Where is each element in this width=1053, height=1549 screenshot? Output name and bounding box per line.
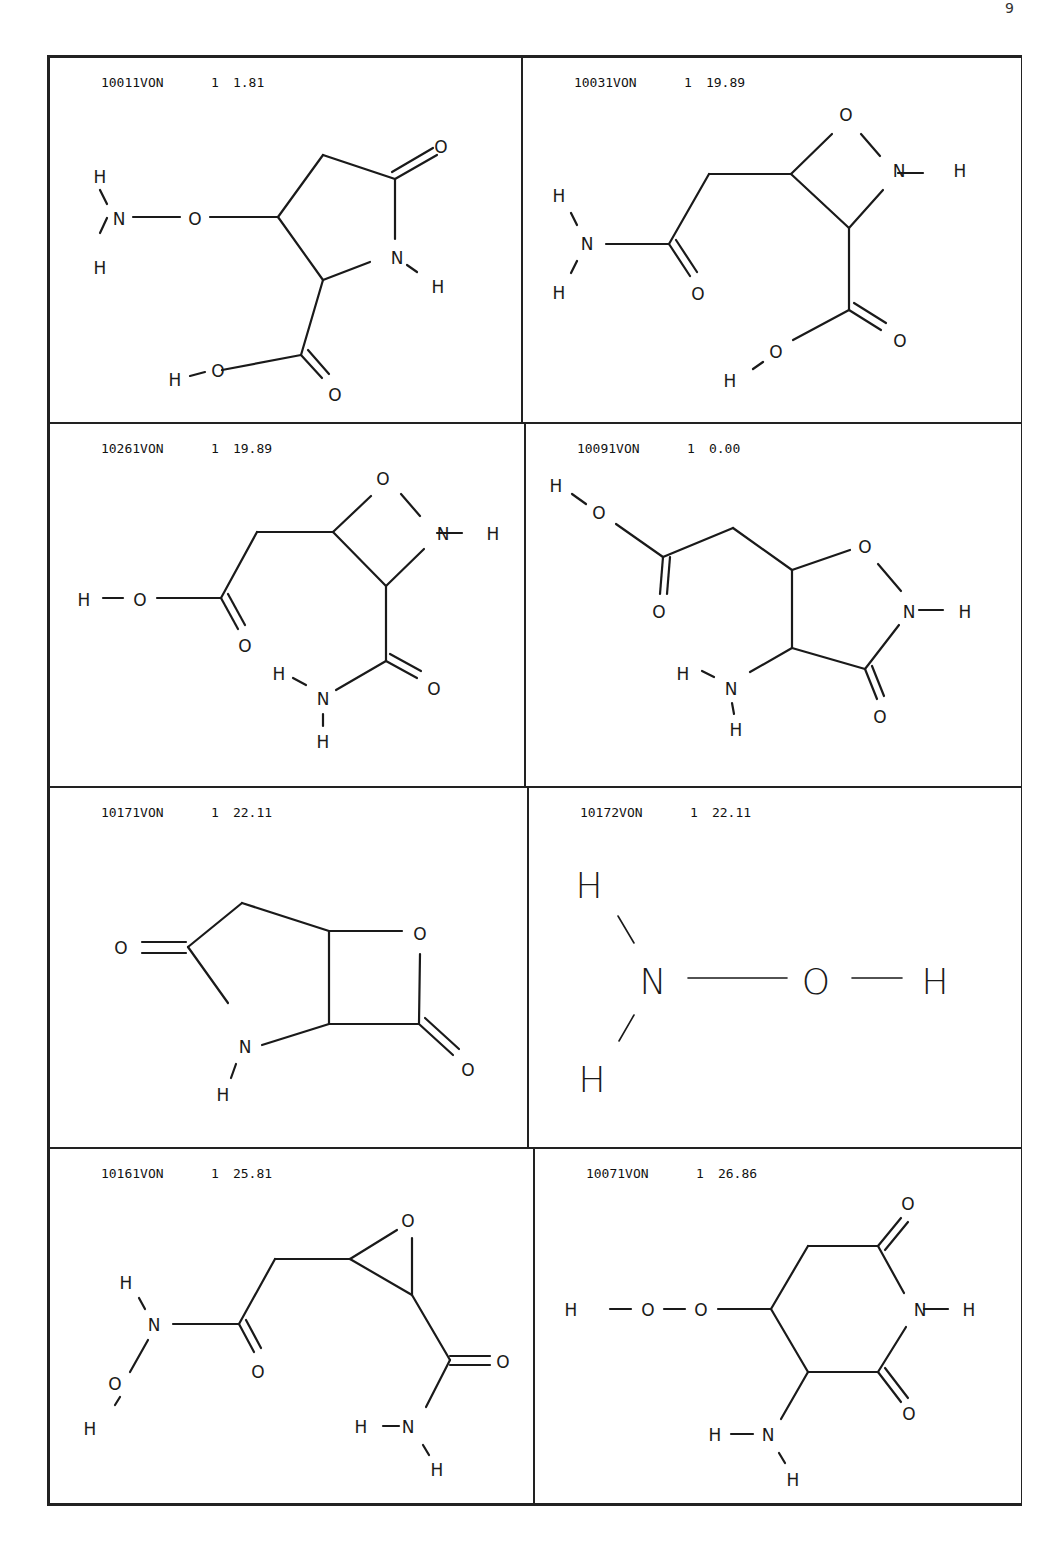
molecule-drawing: H N H O O N H H O O xyxy=(50,58,523,424)
atom-label: O xyxy=(496,1352,509,1372)
atom-label: O xyxy=(839,105,852,125)
molecule-drawing: H O O O N H H N H O xyxy=(526,424,1023,788)
atom-label: N xyxy=(581,234,594,254)
atom-label: H xyxy=(217,1085,230,1105)
atom-label: N xyxy=(113,209,126,229)
atom-label: O xyxy=(694,1300,707,1320)
atom-label: O xyxy=(641,1300,654,1320)
atom-label: H xyxy=(959,602,972,622)
atom-label: N xyxy=(914,1300,927,1320)
structure-cell: 10071VON126.86 O H O O N H O H N H xyxy=(534,1148,1022,1504)
atom-label: H xyxy=(730,720,743,740)
atom-label: N xyxy=(391,248,404,268)
atom-label: O xyxy=(802,961,830,1002)
structure-cell: 10011VON11.81 H N H O O N H H O O xyxy=(49,57,522,423)
structure-grid: 10011VON11.81 H N H O O N H H O O xyxy=(47,55,1022,1506)
atom-label: O xyxy=(769,342,782,362)
atom-label: O xyxy=(188,209,201,229)
atom-label: O xyxy=(401,1211,414,1231)
atom-label: O xyxy=(413,924,426,944)
structure-cell: 10171VON122.11 O O N H O xyxy=(49,787,528,1148)
atom-label: N xyxy=(437,524,450,544)
atom-label: O xyxy=(873,707,886,727)
structure-cell: 10091VON10.00 H O O O N H H N H O xyxy=(525,423,1022,787)
atom-label: O xyxy=(427,679,440,699)
atom-label: O xyxy=(652,602,665,622)
molecule-drawing: O N H H O O H N H O xyxy=(50,424,526,788)
atom-label: O xyxy=(592,503,605,523)
atom-label: N xyxy=(762,1425,775,1445)
atom-label: N xyxy=(402,1417,415,1437)
molecule-drawing: O O N H O xyxy=(50,788,529,1149)
atom-label: O xyxy=(376,469,389,489)
structure-cell: 10031VON119.89 O N H H N H O O H O xyxy=(522,57,1022,423)
atom-label: O xyxy=(893,331,906,351)
atom-label: N xyxy=(239,1037,252,1057)
atom-label: O xyxy=(902,1404,915,1424)
structure-cell: 10261VON119.89 O N H H O O H N H O xyxy=(49,423,525,787)
atom-label: O xyxy=(858,537,871,557)
atom-label: O xyxy=(108,1374,121,1394)
atom-label: H xyxy=(487,524,500,544)
molecule-drawing: O H O O N H O H N H xyxy=(535,1149,1023,1505)
atom-label: H xyxy=(120,1273,133,1293)
atom-label: H xyxy=(550,476,563,496)
atom-label: O xyxy=(901,1194,914,1214)
atom-label: H xyxy=(317,732,330,752)
atom-label: N xyxy=(893,161,906,181)
atom-label: H xyxy=(575,865,602,906)
atom-label: H xyxy=(578,1059,605,1100)
atom-label: O xyxy=(461,1060,474,1080)
atom-label: O xyxy=(238,636,251,656)
atom-label: N xyxy=(640,961,667,1002)
atom-label: O xyxy=(328,385,341,405)
molecule-drawing: O H N O H O O H N H xyxy=(50,1149,535,1505)
atom-label: H xyxy=(273,664,286,684)
atom-label: H xyxy=(78,590,91,610)
atom-label: H xyxy=(724,371,737,391)
atom-label: O xyxy=(211,361,224,381)
atom-label: N xyxy=(148,1315,161,1335)
atom-label: H xyxy=(431,1460,444,1480)
structure-cell: 10172VON122.11 H N H O H xyxy=(528,787,1022,1148)
atom-label: H xyxy=(677,664,690,684)
atom-label: H xyxy=(553,283,566,303)
atom-label: O xyxy=(691,284,704,304)
atom-label: H xyxy=(169,370,182,390)
atom-label: O xyxy=(114,938,127,958)
molecule-drawing: H N H O H xyxy=(529,788,1023,1149)
atom-label: N xyxy=(903,602,916,622)
atom-label: H xyxy=(553,186,566,206)
atom-label: H xyxy=(565,1300,578,1320)
atom-label: H xyxy=(709,1425,722,1445)
atom-label: H xyxy=(84,1419,97,1439)
atom-label: H xyxy=(787,1470,800,1490)
atom-label: H xyxy=(432,277,445,297)
atom-label: H xyxy=(94,167,107,187)
atom-label: H xyxy=(94,258,107,278)
atom-label: N xyxy=(317,689,330,709)
atom-label: O xyxy=(251,1362,264,1382)
atom-label: O xyxy=(133,590,146,610)
atom-label: O xyxy=(434,137,447,157)
atom-label: H xyxy=(954,161,967,181)
atom-label: H xyxy=(355,1417,368,1437)
molecule-drawing: O N H H N H O O H O xyxy=(523,58,1023,424)
page-corner-mark: 9 xyxy=(1005,0,1014,16)
atom-label: H xyxy=(921,961,948,1002)
atom-label: N xyxy=(725,679,738,699)
atom-label: H xyxy=(963,1300,976,1320)
structure-cell: 10161VON125.81 O H N O H O O H N H xyxy=(49,1148,534,1504)
